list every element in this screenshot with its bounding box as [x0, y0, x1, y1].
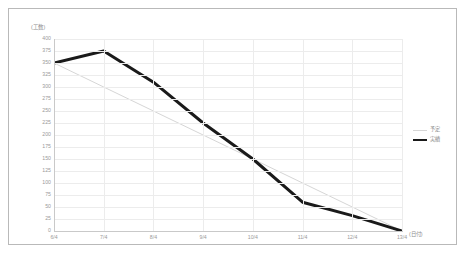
x-axis-ticks: 6/47/48/49/410/411/412/413/4 — [54, 235, 402, 245]
chart-legend: 予定実績 — [413, 125, 463, 145]
gridline-horizontal — [54, 207, 402, 208]
y-axis-line — [54, 39, 55, 231]
gridline-horizontal — [54, 219, 402, 220]
x-tick-label: 6/4 — [32, 235, 76, 240]
gridline-vertical — [153, 39, 154, 231]
y-tick-label: 175 — [11, 144, 51, 149]
x-tick-label: 11/4 — [281, 235, 325, 240]
gridline-horizontal — [54, 51, 402, 52]
gridline-vertical — [303, 39, 304, 231]
gridline-horizontal — [54, 183, 402, 184]
gridline-horizontal — [54, 63, 402, 64]
x-tick-label: 7/4 — [82, 235, 126, 240]
plot-area — [54, 39, 402, 231]
gridline-vertical — [104, 39, 105, 231]
y-tick-label: 400 — [11, 36, 51, 41]
x-tick-label: 13/4 — [380, 235, 424, 240]
series-line-実績 — [54, 51, 402, 231]
gridline-horizontal — [54, 111, 402, 112]
gridline-vertical — [402, 39, 403, 231]
y-tick-label: 75 — [11, 192, 51, 197]
gridline-horizontal — [54, 123, 402, 124]
gridline-horizontal — [54, 39, 402, 40]
x-tick-label: 9/4 — [181, 235, 225, 240]
y-tick-label: 225 — [11, 120, 51, 125]
y-tick-label: 100 — [11, 180, 51, 185]
gridline-vertical — [253, 39, 254, 231]
gridline-horizontal — [54, 75, 402, 76]
gridline-horizontal — [54, 171, 402, 172]
gridline-horizontal — [54, 195, 402, 196]
legend-swatch-icon — [413, 130, 427, 131]
y-tick-label: 0 — [11, 228, 51, 233]
gridline-vertical — [352, 39, 353, 231]
y-axis-title: (工数) — [31, 23, 45, 31]
y-tick-label: 200 — [11, 132, 51, 137]
y-tick-label: 275 — [11, 96, 51, 101]
y-tick-label: 50 — [11, 204, 51, 209]
y-tick-label: 125 — [11, 168, 51, 173]
y-tick-label: 250 — [11, 108, 51, 113]
y-tick-label: 150 — [11, 156, 51, 161]
y-tick-label: 350 — [11, 60, 51, 65]
x-tick-label: 12/4 — [330, 235, 374, 240]
legend-item[interactable]: 実績 — [413, 135, 463, 145]
legend-label: 予定 — [430, 127, 440, 132]
gridline-horizontal — [54, 147, 402, 148]
chart-frame: (工数) (日付) 400375350325300275250225200175… — [8, 8, 457, 245]
x-tick-label: 8/4 — [131, 235, 175, 240]
gridline-horizontal — [54, 87, 402, 88]
y-tick-label: 325 — [11, 72, 51, 77]
gridline-vertical — [203, 39, 204, 231]
legend-item[interactable]: 予定 — [413, 125, 463, 135]
y-tick-label: 300 — [11, 84, 51, 89]
x-axis-line — [54, 231, 403, 232]
gridline-horizontal — [54, 159, 402, 160]
gridline-horizontal — [54, 99, 402, 100]
y-axis-ticks: 4003753503253002752502252001751501251007… — [9, 39, 51, 231]
y-tick-label: 375 — [11, 48, 51, 53]
x-tick-label: 10/4 — [231, 235, 275, 240]
y-tick-label: 25 — [11, 216, 51, 221]
legend-swatch-icon — [413, 139, 427, 141]
legend-label: 実績 — [430, 137, 440, 142]
gridline-horizontal — [54, 135, 402, 136]
